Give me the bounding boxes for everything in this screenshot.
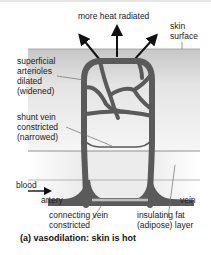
arterioles-label-2: arterioles bbox=[17, 66, 52, 76]
blood-label: blood bbox=[16, 180, 37, 190]
arterioles-label-4: (widened) bbox=[17, 86, 54, 96]
figure-caption: (a) vasodilation: skin is hot bbox=[20, 233, 136, 243]
skin-label: skin bbox=[170, 21, 185, 31]
connecting-label-1: connecting vein bbox=[49, 210, 108, 220]
arterioles-label-1: superficial bbox=[17, 56, 55, 66]
shunt-label-1: shunt vein bbox=[17, 112, 56, 122]
shunt-label-2: constricted bbox=[17, 122, 58, 132]
fat-label-1: insulating fat bbox=[137, 210, 185, 220]
connecting-label-2: constricted bbox=[49, 220, 90, 230]
arterioles-label-3: dilated bbox=[17, 76, 42, 86]
fat-label-2: (adipose) layer bbox=[137, 220, 193, 230]
surface-label: surface bbox=[170, 31, 198, 41]
heat-label: more heat radiated bbox=[78, 11, 149, 21]
connecting-vein bbox=[92, 198, 148, 202]
shunt-label-3: (narrowed) bbox=[17, 132, 58, 142]
vein-label: vein bbox=[180, 195, 196, 205]
artery-label: artery bbox=[41, 195, 63, 205]
